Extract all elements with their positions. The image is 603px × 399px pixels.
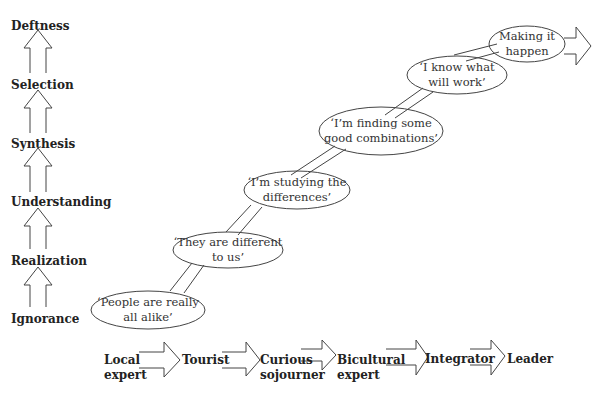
level-understanding: Understanding [11,195,111,209]
stage-local-expert: Localexpert [104,353,147,383]
ellipse-people-alike: ‘People are reallyall alike’ [91,291,205,329]
level-deftness: Deftness [11,19,70,33]
stage-curious-sojourner: Curioussojourner [260,353,325,383]
level-synthesis: Synthesis [11,137,75,151]
level-selection: Selection [11,78,74,92]
ellipse-making-it-happen: Making ithappen [489,26,565,62]
stage-bicultural-expert: Biculturalexpert [337,353,405,383]
ellipse-different-to-us: ‘They are differentto us’ [173,232,283,268]
stage-leader: Leader [507,352,553,367]
ellipse-finding-combinations: ‘I’m finding somegood combinations’ [319,107,443,155]
level-realization: Realization [11,254,87,268]
level-ignorance: Ignorance [11,312,80,326]
ellipse-studying-differences: ‘I’m studying thedifferences’ [244,171,350,209]
stage-integrator: Integrator [425,352,495,367]
stage-tourist: Tourist [182,353,229,368]
